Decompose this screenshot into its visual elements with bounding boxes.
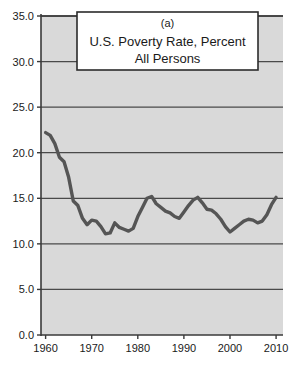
- y-tick-label: 15.0: [13, 192, 34, 204]
- y-tick-label: 10.0: [13, 238, 34, 250]
- x-tick-label: 2000: [218, 342, 242, 354]
- x-tick-label: 2010: [264, 342, 288, 354]
- panel-label: (a): [161, 17, 174, 29]
- title-line-2: All Persons: [135, 51, 201, 66]
- y-tick-label: 25.0: [13, 101, 34, 113]
- y-tick-label: 30.0: [13, 56, 34, 68]
- title-box: (a) U.S. Poverty Rate, Percent All Perso…: [77, 12, 258, 70]
- poverty-rate-chart: 0.05.010.015.020.025.030.035.0 196019701…: [0, 0, 294, 366]
- x-tick-label: 1980: [126, 342, 150, 354]
- y-tick-label: 0.0: [19, 329, 34, 341]
- y-tick-label: 35.0: [13, 10, 34, 22]
- y-tick-label: 20.0: [13, 147, 34, 159]
- x-tick-label: 1990: [172, 342, 196, 354]
- poverty-rate-figure: 0.05.010.015.020.025.030.035.0 196019701…: [0, 0, 294, 366]
- x-tick-label: 1960: [33, 342, 57, 354]
- title-line-1: U.S. Poverty Rate, Percent: [89, 34, 245, 49]
- x-tick-label: 1970: [79, 342, 103, 354]
- y-tick-label: 5.0: [19, 283, 34, 295]
